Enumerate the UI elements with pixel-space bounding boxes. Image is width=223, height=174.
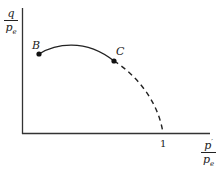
dashed-curve-c-to-axis: [114, 61, 163, 133]
x-axis-label-denominator: pe: [201, 154, 216, 168]
x-numerator-prime: ′: [211, 138, 213, 146]
x-tick-label-1: 1: [160, 138, 166, 149]
solid-curve-b-to-c: [39, 45, 114, 61]
point-c-label: C: [116, 45, 125, 58]
y-denominator-sub: e: [12, 28, 16, 36]
x-axis-label: p′ pe: [201, 139, 216, 168]
yield-surface-diagram: B C 1 q pe p′ pe: [0, 0, 223, 174]
point-b: [36, 51, 41, 56]
x-denominator-sub: e: [210, 160, 214, 168]
x-axis-label-numerator: p′: [201, 139, 216, 151]
point-c: [111, 58, 116, 63]
y-axis-label-numerator: q: [4, 8, 18, 19]
plot-area: B C 1: [0, 0, 223, 174]
y-axis-label: q pe: [4, 8, 18, 36]
point-b-label: B: [31, 39, 40, 52]
x-denominator-base: p: [203, 153, 210, 166]
y-axis-label-denominator: pe: [4, 22, 18, 36]
